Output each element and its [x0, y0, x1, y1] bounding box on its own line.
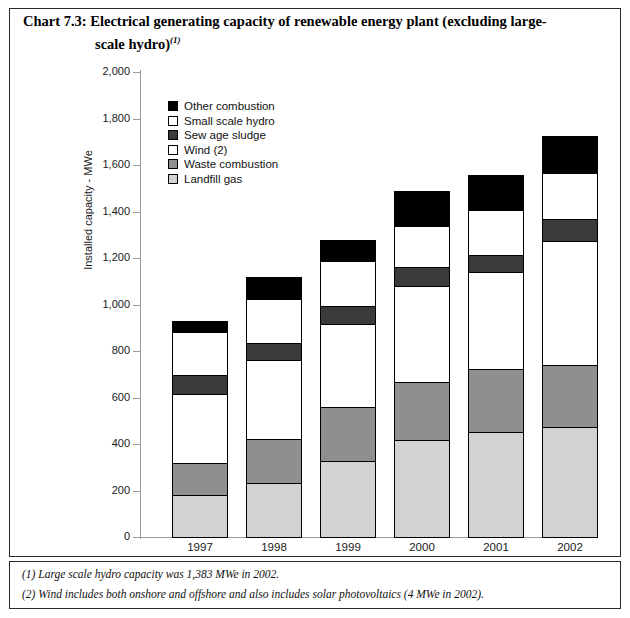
bar-2001[interactable]	[468, 72, 524, 537]
footnote-2: (2) Wind includes both onshore and offsh…	[22, 588, 484, 600]
bar-segment-waste-combustion[interactable]	[246, 439, 302, 484]
bar-segment-wind-2[interactable]	[542, 241, 598, 367]
y-axis-tick	[133, 444, 140, 445]
title-line-2: scale hydro)(1)	[23, 31, 603, 54]
y-axis-tick	[133, 119, 140, 120]
bar-segment-wind-2[interactable]	[394, 286, 450, 383]
y-axis-tick	[133, 212, 140, 213]
bar-segment-other-combustion[interactable]	[320, 240, 376, 262]
y-axis-tick	[133, 398, 140, 399]
bar-1998[interactable]	[246, 72, 302, 537]
bar-segment-landfill-gas[interactable]	[394, 440, 450, 538]
y-axis-tick	[133, 351, 140, 352]
bar-segment-wind-2[interactable]	[246, 360, 302, 440]
chart-page: Chart 7.3: Electrical generating capacit…	[0, 0, 630, 618]
y-axis-tick-label: 1,800	[84, 112, 130, 124]
bar-segment-small-scale-hydro[interactable]	[468, 210, 524, 256]
y-axis-tick	[133, 537, 140, 538]
y-axis-tick-label: 1,200	[84, 251, 130, 263]
bar-segment-waste-combustion[interactable]	[320, 407, 376, 462]
y-axis-tick-label: 400	[84, 437, 130, 449]
bar-segment-landfill-gas[interactable]	[246, 483, 302, 538]
bar-segment-other-combustion[interactable]	[468, 175, 524, 212]
x-axis-tick-label-1997: 1997	[160, 541, 240, 553]
bar-segment-small-scale-hydro[interactable]	[542, 173, 598, 220]
bar-segment-other-combustion[interactable]	[394, 191, 450, 227]
bar-segment-small-scale-hydro[interactable]	[246, 299, 302, 344]
y-axis-tick-label: 600	[84, 391, 130, 403]
bar-segment-sew-age-sludge[interactable]	[394, 267, 450, 287]
bar-segment-sew-age-sludge[interactable]	[320, 306, 376, 325]
footnote-1: (1) Large scale hydro capacity was 1,383…	[22, 568, 279, 580]
bar-segment-sew-age-sludge[interactable]	[246, 343, 302, 361]
bar-segment-small-scale-hydro[interactable]	[172, 332, 228, 376]
y-axis-tick-label: 1,000	[84, 298, 130, 310]
y-axis-tick-label: 2,000	[84, 65, 130, 77]
y-axis-tick-label: 1,600	[84, 158, 130, 170]
y-axis-tick-label: 1,400	[84, 205, 130, 217]
bar-segment-waste-combustion[interactable]	[394, 382, 450, 441]
bar-segment-wind-2[interactable]	[468, 272, 524, 370]
y-axis-tick-label: 800	[84, 344, 130, 356]
bar-segment-wind-2[interactable]	[320, 324, 376, 408]
bar-segment-landfill-gas[interactable]	[320, 461, 376, 538]
x-axis-tick-label-2000: 2000	[382, 541, 462, 553]
x-axis-tick-label-1999: 1999	[308, 541, 388, 553]
bar-1997[interactable]	[172, 72, 228, 537]
y-axis-tick	[133, 165, 140, 166]
x-axis-tick-label-2002: 2002	[530, 541, 610, 553]
title-line-1: Chart 7.3: Electrical generating capacit…	[23, 13, 547, 29]
bar-2000[interactable]	[394, 72, 450, 537]
bar-segment-other-combustion[interactable]	[542, 136, 598, 174]
title-footnote-marker: (1)	[170, 35, 181, 45]
bar-segment-sew-age-sludge[interactable]	[172, 375, 228, 394]
y-axis-tick	[133, 491, 140, 492]
bar-1999[interactable]	[320, 72, 376, 537]
bar-segment-waste-combustion[interactable]	[172, 463, 228, 496]
bar-segment-other-combustion[interactable]	[246, 277, 302, 300]
bar-segment-small-scale-hydro[interactable]	[394, 226, 450, 268]
y-axis-tick	[133, 258, 140, 259]
bar-segment-landfill-gas[interactable]	[172, 495, 228, 538]
y-axis-tick	[133, 72, 140, 73]
x-axis-tick-label-1998: 1998	[234, 541, 314, 553]
bar-segment-wind-2[interactable]	[172, 394, 228, 465]
page-title: Chart 7.3: Electrical generating capacit…	[23, 12, 603, 54]
y-axis-tick-label: 0	[84, 530, 130, 542]
bar-segment-sew-age-sludge[interactable]	[468, 255, 524, 273]
bar-segment-landfill-gas[interactable]	[542, 427, 598, 538]
bar-segment-sew-age-sludge[interactable]	[542, 219, 598, 242]
x-axis-tick-label-2001: 2001	[456, 541, 536, 553]
bar-segment-waste-combustion[interactable]	[542, 365, 598, 428]
bar-segment-landfill-gas[interactable]	[468, 432, 524, 538]
bar-segment-small-scale-hydro[interactable]	[320, 261, 376, 307]
bar-segment-waste-combustion[interactable]	[468, 369, 524, 433]
bar-2002[interactable]	[542, 72, 598, 537]
y-axis-tick-label: 200	[84, 484, 130, 496]
y-axis-tick	[133, 305, 140, 306]
